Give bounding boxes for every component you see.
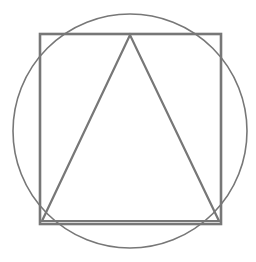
triangle-shape [42,35,219,221]
diagram-canvas [0,0,256,262]
circle-shape [13,14,247,248]
square-shape [40,34,221,224]
geometry-figure [0,0,256,262]
